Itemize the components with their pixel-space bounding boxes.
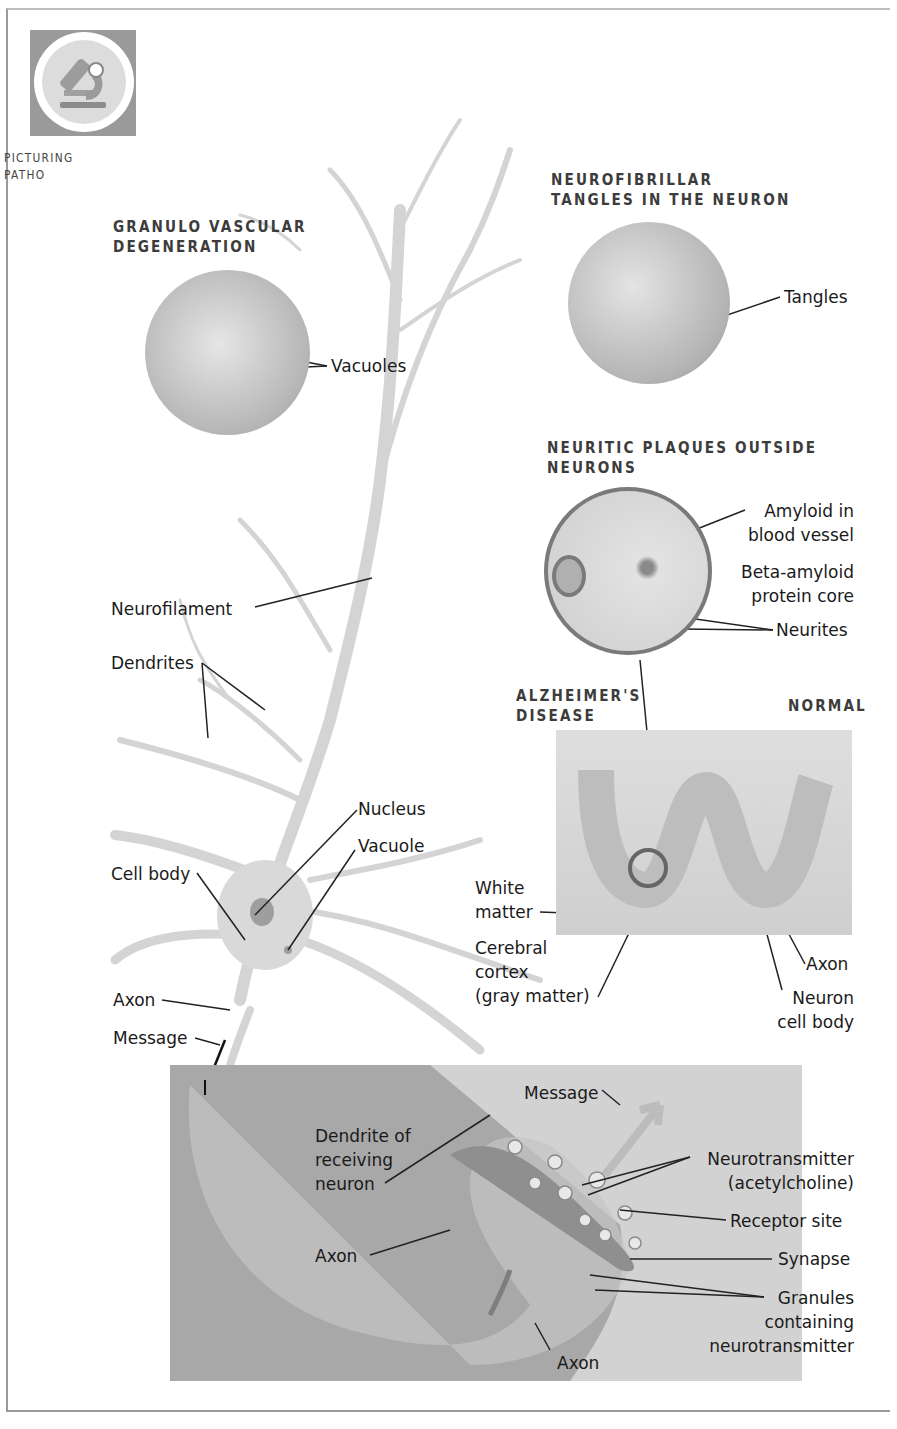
- label-axon-synapse-mid: Axon: [315, 1244, 357, 1268]
- label-neurotransmitter: Neurotransmitter(acetylcholine): [680, 1147, 854, 1195]
- label-granules: Granulescontainingneurotransmitter: [680, 1286, 854, 1358]
- label-neurites: Neurites: [776, 618, 848, 642]
- heading-neuritic-plaques: NEURITIC PLAQUES OUTSIDENEURONS: [547, 438, 817, 478]
- label-synapse: Synapse: [778, 1247, 850, 1271]
- label-axon-cortex: Axon: [806, 952, 848, 976]
- heading-alzheimers-disease: ALZHEIMER'SDISEASE: [516, 686, 641, 726]
- label-tangles: Tangles: [784, 285, 848, 309]
- heading-neurofibrillary-tangles: NEUROFIBRILLARTANGLES IN THE NEURON: [551, 170, 790, 210]
- label-axon-synapse-bottom: Axon: [557, 1351, 599, 1375]
- cortex-block: [556, 730, 852, 935]
- label-beta-amyloid: Beta-amyloidprotein core: [720, 560, 854, 608]
- heading-normal: NORMAL: [788, 696, 867, 716]
- label-receptor-site: Receptor site: [730, 1209, 842, 1233]
- label-white-matter: Whitematter: [475, 876, 533, 924]
- granulo-vascular-circle: [145, 270, 310, 435]
- label-cerebral-cortex: Cerebralcortex(gray matter): [475, 936, 590, 1008]
- label-amyloid-blood-vessel: Amyloid inblood vessel: [730, 499, 854, 547]
- label-dendrites: Dendrites: [111, 651, 194, 675]
- label-axon-neuron: Axon: [113, 988, 155, 1012]
- label-vacuole: Vacuole: [358, 834, 424, 858]
- label-neurofilament: Neurofilament: [111, 597, 232, 621]
- heading-granulo-vascular: GRANULO VASCULARDEGENERATION: [113, 217, 307, 257]
- amyloid-blood-vessel: [552, 555, 586, 597]
- label-neuron-cell-body: Neuroncell body: [770, 986, 854, 1034]
- label-message-synapse: Message: [524, 1081, 599, 1105]
- label-nucleus: Nucleus: [358, 797, 426, 821]
- neurofibrillary-tangles-circle: [568, 222, 730, 384]
- label-cell-body: Cell body: [111, 862, 190, 886]
- label-dendrite-receiving-neuron: Dendrite ofreceivingneuron: [315, 1124, 411, 1196]
- label-vacuoles: Vacuoles: [331, 354, 406, 378]
- label-message-neuron: Message: [113, 1026, 188, 1050]
